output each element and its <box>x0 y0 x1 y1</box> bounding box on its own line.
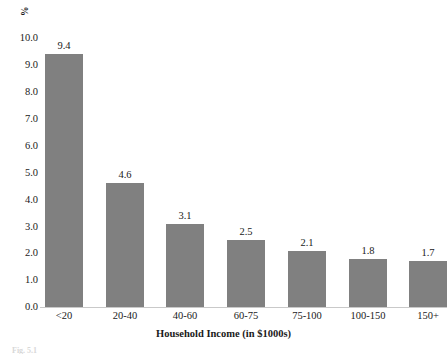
bar <box>409 261 447 307</box>
x-tick-label: 150+ <box>409 311 447 322</box>
bar-value-label: 4.6 <box>106 170 144 181</box>
bar-group: 1.8 <box>349 0 387 307</box>
bar-group: 2.5 <box>227 0 265 307</box>
bar-group: 2.1 <box>288 0 326 307</box>
x-tick-label: 100-150 <box>344 311 392 322</box>
bar-value-label: 3.1 <box>166 211 204 222</box>
x-axis-title: Household Income (in $1000s) <box>0 329 447 340</box>
bar <box>45 54 83 307</box>
bar-value-label: 2.1 <box>288 238 326 249</box>
bar-group: 3.1 <box>166 0 204 307</box>
bars-layer: 9.4 4.6 3.1 2.5 2.1 1.8 <box>0 0 447 307</box>
bar-group: 1.7 <box>409 0 447 307</box>
figure-caption-fragment: Fig. 5.1 <box>12 347 37 354</box>
bar-value-label: 2.5 <box>227 227 265 238</box>
bar-value-label: 1.8 <box>349 246 387 257</box>
x-tick-label: 20-40 <box>106 311 144 322</box>
x-tick-label: <20 <box>45 311 83 322</box>
bar-value-label: 1.7 <box>409 248 447 259</box>
bar <box>106 183 144 307</box>
x-tick-label: 75-100 <box>288 311 326 322</box>
bar <box>349 259 387 307</box>
bar <box>227 240 265 307</box>
bar <box>166 224 204 307</box>
x-axis-line <box>40 307 447 308</box>
plot-area: % 10.0 9.0 8.0 7.0 6.0 5.0 4.0 3.0 2.0 1… <box>0 0 447 312</box>
x-tick-label: 60-75 <box>227 311 265 322</box>
bar-value-label: 9.4 <box>45 41 83 52</box>
figure-bar-chart: % 10.0 9.0 8.0 7.0 6.0 5.0 4.0 3.0 2.0 1… <box>0 0 447 356</box>
bar-group: 9.4 <box>45 0 83 307</box>
x-tick-label: 40-60 <box>166 311 204 322</box>
bar-group: 4.6 <box>106 0 144 307</box>
bar <box>288 251 326 307</box>
